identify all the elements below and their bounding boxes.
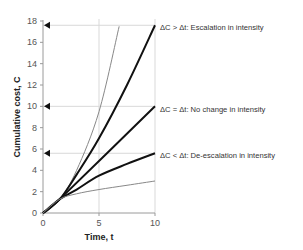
- annotation-escalation: ΔC > Δt: Escalation in intensity: [160, 23, 264, 32]
- y-tick-label: 6: [32, 144, 37, 154]
- y-tick-label: 16: [27, 37, 37, 47]
- y-tick-label: 10: [27, 101, 37, 111]
- annotation-de-escalation: ΔC < Δt: De-escalation in intensity: [160, 151, 275, 160]
- y-axis-markers: [44, 22, 50, 157]
- x-tick-label: 0: [40, 218, 45, 228]
- annotation-no-change: ΔC = Δt: No change in intensity: [160, 105, 266, 114]
- y-axis-title: Cumulative cost, C: [12, 76, 22, 158]
- arrow-marker-icon: [44, 103, 50, 110]
- y-tick-label: 0: [32, 208, 37, 218]
- y-tick-label: 2: [32, 187, 37, 197]
- arrow-marker-icon: [44, 150, 50, 157]
- y-tick-label: 12: [27, 80, 37, 90]
- chart: 0246810121416180510 Time, t Cumulative c…: [0, 0, 303, 250]
- y-tick-label: 8: [32, 123, 37, 133]
- y-tick-label: 14: [27, 59, 37, 69]
- x-axis-title: Time, t: [85, 232, 114, 242]
- x-tick-label: 5: [96, 218, 101, 228]
- x-tick-label: 10: [150, 218, 160, 228]
- y-tick-label: 18: [27, 16, 37, 26]
- y-tick-label: 4: [32, 165, 37, 175]
- arrow-marker-icon: [44, 22, 50, 29]
- series-line: [43, 26, 119, 213]
